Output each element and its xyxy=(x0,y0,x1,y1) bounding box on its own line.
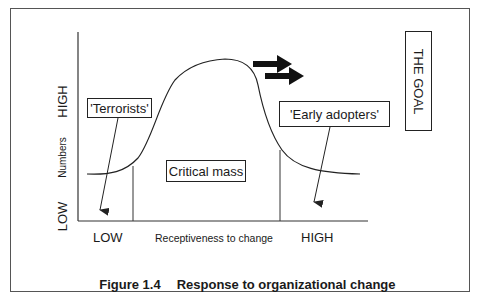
caption-title: Response to organizational change xyxy=(177,277,396,292)
arrow-right-icon xyxy=(253,55,292,73)
goal-label: THE GOAL xyxy=(411,48,426,114)
early-adopters-pointer xyxy=(314,127,330,202)
y-axis-title: Numbers xyxy=(57,132,68,184)
y-low-label: LOW xyxy=(55,197,70,237)
arrow-right-icon xyxy=(265,67,304,85)
early-adopters-box: 'Early adopters' xyxy=(279,101,390,127)
y-high-label: HIGH xyxy=(55,82,70,122)
terrorists-pointer xyxy=(100,118,118,210)
x-axis-title: Receptiveness to change xyxy=(155,232,273,244)
terrorists-box: 'Terrorists' xyxy=(87,98,152,118)
critical-mass-box: Critical mass xyxy=(166,160,246,182)
x-high-label: HIGH xyxy=(301,230,334,245)
figure-caption: Figure 1.4Response to organizational cha… xyxy=(92,262,396,292)
goal-box: THE GOAL xyxy=(405,31,432,131)
caption-number: Figure 1.4 xyxy=(99,277,160,292)
x-low-label: LOW xyxy=(93,230,123,245)
